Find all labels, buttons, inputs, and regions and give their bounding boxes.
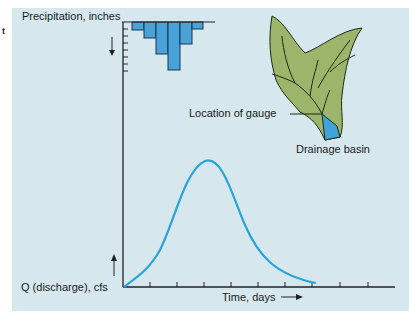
gauge-label: Location of gauge <box>189 107 276 119</box>
discharge-label: Q (discharge), cfs <box>21 281 108 293</box>
arrow-down-icon <box>109 50 115 56</box>
hydrograph-curve <box>124 160 316 287</box>
arrow-right-icon <box>296 294 303 300</box>
hydrograph-svg <box>0 0 409 319</box>
precipitation-label: Precipitation, inches <box>22 10 120 22</box>
time-label: Time, days <box>222 291 275 303</box>
precipitation-bars <box>132 22 203 70</box>
basin-label: Drainage basin <box>296 143 370 155</box>
arrow-up-icon <box>111 254 117 261</box>
drainage-basin <box>270 16 362 140</box>
